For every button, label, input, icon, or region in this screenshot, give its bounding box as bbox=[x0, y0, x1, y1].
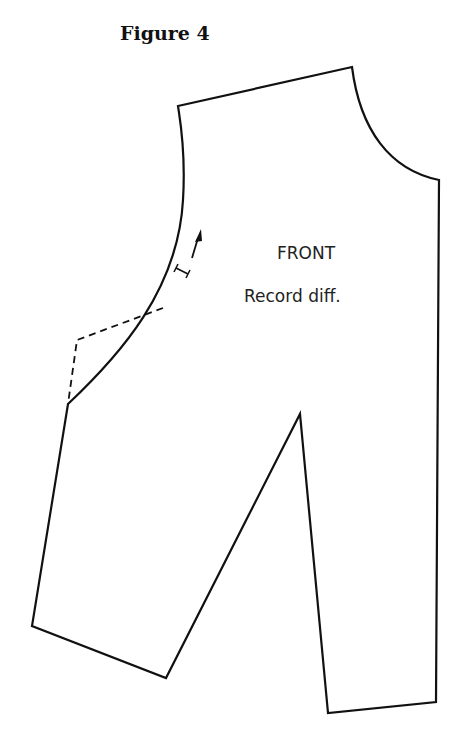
instruction-label: Record diff. bbox=[244, 286, 341, 306]
arrow-up-icon bbox=[192, 229, 202, 258]
pattern-outline bbox=[32, 67, 439, 713]
notch-mark bbox=[174, 264, 190, 278]
piece-label-front: FRONT bbox=[277, 243, 335, 263]
front-bodice-pattern bbox=[0, 0, 473, 732]
